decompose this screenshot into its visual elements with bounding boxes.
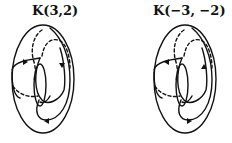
- arrow-icon: [44, 118, 49, 124]
- torus-knot-diagram: [0, 0, 116, 143]
- panel-k-minus3-minus2: K(−3, −2): [116, 0, 232, 143]
- arrow-icon: [187, 118, 192, 124]
- arrow-icon: [164, 59, 169, 65]
- panel-k-3-2: K(3,2): [0, 0, 116, 143]
- torus-knot-diagram: [116, 0, 232, 143]
